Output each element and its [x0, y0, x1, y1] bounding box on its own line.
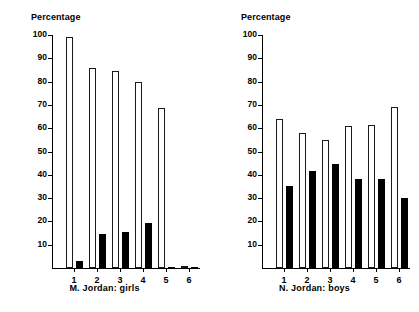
bar-filled	[378, 179, 385, 268]
bar-filled	[76, 261, 83, 268]
x-tick-mark	[399, 268, 400, 272]
y-tick-label: 70	[38, 99, 47, 109]
bar-filled	[145, 223, 152, 268]
bar-filled	[122, 232, 129, 268]
y-tick-label: 20	[248, 215, 257, 225]
bar-open	[299, 133, 306, 268]
y-tick-mark	[258, 128, 263, 129]
y-tick-label: 30	[248, 192, 257, 202]
bar-filled	[332, 164, 339, 268]
x-tick-mark	[74, 268, 75, 272]
y-tick-mark	[48, 152, 53, 153]
y-tick-mark	[48, 198, 53, 199]
x-tick-mark	[330, 268, 331, 272]
y-tick-label: 50	[38, 146, 47, 156]
y-tick: 20	[262, 221, 263, 222]
y-tick: 100	[52, 35, 53, 36]
x-tick-mark	[120, 268, 121, 272]
y-tick-mark	[48, 128, 53, 129]
plot-area-boys: 102030405060708090100 123456	[262, 35, 402, 268]
y-tick-mark	[48, 35, 53, 36]
plot-area-girls: 102030405060708090100 123456	[52, 35, 192, 268]
y-tick: 30	[262, 198, 263, 199]
bar-open	[181, 266, 188, 268]
y-tick: 10	[52, 245, 53, 246]
y-tick-label: 100	[33, 29, 47, 39]
y-tick-label: 90	[248, 52, 257, 62]
y-tick: 90	[262, 58, 263, 59]
chart-page: Percentage 102030405060708090100 123456 …	[0, 0, 419, 312]
y-tick-label: 10	[248, 239, 257, 249]
y-tick-label: 100	[243, 29, 257, 39]
y-tick-mark	[258, 35, 263, 36]
y-tick-label: 30	[38, 192, 47, 202]
y-axis-title: Percentage	[31, 12, 81, 22]
chart-caption-boys: N. Jordan: boys	[210, 283, 419, 293]
y-tick: 100	[262, 35, 263, 36]
y-tick-label: 60	[248, 122, 257, 132]
y-tick-label: 10	[38, 239, 47, 249]
bar-open	[89, 68, 96, 268]
bar-open	[112, 71, 119, 268]
bar-filled	[355, 179, 362, 268]
y-tick-mark	[258, 105, 263, 106]
x-tick-mark	[376, 268, 377, 272]
bar-filled	[286, 186, 293, 268]
x-tick-mark	[307, 268, 308, 272]
y-tick-mark	[258, 175, 263, 176]
x-tick-mark	[166, 268, 167, 272]
y-tick-label: 50	[248, 146, 257, 156]
y-tick: 80	[52, 82, 53, 83]
y-tick-mark	[258, 221, 263, 222]
x-tick-mark	[284, 268, 285, 272]
y-tick-label: 90	[38, 52, 47, 62]
y-tick: 70	[262, 105, 263, 106]
x-tick-mark	[143, 268, 144, 272]
y-tick-mark	[258, 58, 263, 59]
bar-filled	[191, 267, 198, 268]
y-tick-label: 40	[38, 169, 47, 179]
y-tick: 30	[52, 198, 53, 199]
y-tick: 80	[262, 82, 263, 83]
y-axis-title: Percentage	[241, 12, 291, 22]
y-tick-label: 20	[38, 215, 47, 225]
y-tick: 60	[262, 128, 263, 129]
y-tick-label: 60	[38, 122, 47, 132]
bar-filled	[99, 234, 106, 268]
bar-open	[66, 37, 73, 268]
y-tick-mark	[48, 58, 53, 59]
x-tick-mark	[97, 268, 98, 272]
bar-open	[368, 125, 375, 268]
x-tick-mark	[189, 268, 190, 272]
bar-open	[135, 82, 142, 268]
bar-open	[391, 107, 398, 268]
bar-filled	[168, 267, 175, 268]
y-tick: 70	[52, 105, 53, 106]
y-tick: 10	[262, 245, 263, 246]
bar-open	[322, 140, 329, 268]
y-tick-mark	[48, 175, 53, 176]
y-tick: 20	[52, 221, 53, 222]
y-tick: 90	[52, 58, 53, 59]
chart-caption-girls: M. Jordan: girls	[0, 283, 209, 293]
x-tick-mark	[353, 268, 354, 272]
bar-open	[345, 126, 352, 268]
y-tick-mark	[48, 82, 53, 83]
y-tick-mark	[48, 221, 53, 222]
y-tick: 40	[52, 175, 53, 176]
bar-filled	[309, 171, 316, 268]
y-tick-mark	[258, 152, 263, 153]
bar-open	[276, 119, 283, 268]
y-tick-mark	[258, 82, 263, 83]
y-tick-mark	[48, 105, 53, 106]
y-tick-label: 70	[248, 99, 257, 109]
y-tick: 50	[262, 152, 263, 153]
y-tick-mark	[258, 245, 263, 246]
y-tick: 60	[52, 128, 53, 129]
y-tick-mark	[48, 245, 53, 246]
y-tick-mark	[258, 198, 263, 199]
bar-filled	[401, 198, 408, 268]
bar-open	[158, 108, 165, 268]
y-tick: 40	[262, 175, 263, 176]
chart-panel-boys: Percentage 102030405060708090100 123456 …	[210, 0, 419, 312]
